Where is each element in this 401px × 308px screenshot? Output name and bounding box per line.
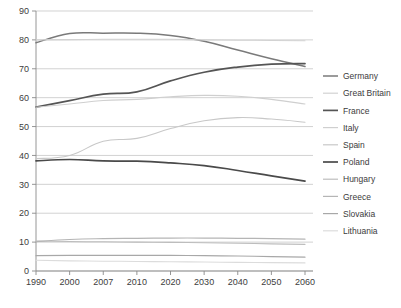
y-tick-label: 80 [19, 35, 29, 45]
x-tick-label: 2050 [261, 277, 281, 287]
chart-canvas: 0102030405060708090 19902000200720102020… [0, 0, 401, 308]
legend-label-greece: Greece [343, 192, 371, 202]
y-tick-label: 90 [19, 6, 29, 16]
legend-label-spain: Spain [343, 140, 365, 150]
x-tick-label: 2020 [160, 277, 180, 287]
legend-label-hungary: Hungary [343, 174, 376, 184]
x-tick-label: 2030 [194, 277, 214, 287]
legend-label-great-britain: Great Britain [343, 88, 391, 98]
series-line-slovakia [36, 255, 305, 257]
legend-label-poland: Poland [343, 157, 370, 167]
y-tick-label: 50 [19, 122, 29, 132]
x-tick-label: 2010 [127, 277, 147, 287]
legend: GermanyGreat BritainFranceItalySpainPola… [323, 71, 391, 236]
y-tick-label: 40 [19, 151, 29, 161]
series-line-france [36, 64, 305, 108]
series-line-poland [36, 159, 305, 181]
gridlines [36, 11, 313, 271]
line-chart: 0102030405060708090 19902000200720102020… [0, 0, 401, 308]
legend-label-germany: Germany [343, 71, 379, 81]
series-line-germany [36, 33, 305, 67]
y-tick-label: 30 [19, 180, 29, 190]
data-series-group [36, 33, 305, 263]
x-tick-label: 1990 [26, 277, 46, 287]
series-line-italy [36, 95, 305, 107]
legend-label-france: France [343, 106, 370, 116]
series-line-lithuania [36, 260, 305, 263]
legend-label-slovakia: Slovakia [343, 209, 375, 219]
y-tick-label: 60 [19, 93, 29, 103]
x-tick-label: 2007 [93, 277, 113, 287]
axis-lines [36, 11, 313, 271]
x-tick-label: 2060 [295, 277, 315, 287]
y-axis-ticks [32, 11, 36, 271]
y-tick-label: 10 [19, 237, 29, 247]
series-line-spain [36, 118, 305, 159]
y-tick-label: 20 [19, 208, 29, 218]
x-tick-label: 2000 [60, 277, 80, 287]
legend-label-italy: Italy [343, 123, 359, 133]
series-line-greece [36, 238, 305, 242]
x-axis-tick-labels: 199020002007201020202030204020502060 [26, 277, 315, 287]
y-axis-tick-labels: 0102030405060708090 [19, 6, 29, 276]
x-tick-label: 2040 [228, 277, 248, 287]
legend-label-lithuania: Lithuania [343, 226, 378, 236]
series-line-hungary [36, 241, 305, 244]
y-tick-label: 70 [19, 64, 29, 74]
x-axis-ticks [36, 271, 305, 275]
y-tick-label: 0 [24, 266, 29, 276]
